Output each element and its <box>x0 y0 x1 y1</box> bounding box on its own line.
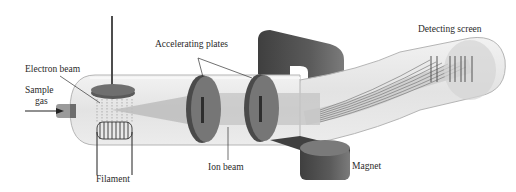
label-accelerating-plates: Accelerating plates <box>155 39 228 49</box>
label-sample-gas-1: Sample <box>25 85 54 95</box>
accelerating-plate-1 <box>186 75 221 143</box>
label-electron-beam: Electron beam <box>25 64 81 74</box>
accelerating-plate-2 <box>244 74 279 142</box>
label-sample-gas-2: gas <box>35 96 48 106</box>
label-filament: Filament <box>96 174 130 184</box>
electrode <box>91 16 135 99</box>
mass-spectrometer-diagram: Electron beam Sample gas Filament Accele… <box>0 0 516 192</box>
magnet-lower-pole <box>270 136 350 180</box>
label-ion-beam: Ion beam <box>208 162 244 172</box>
label-magnet: Magnet <box>352 161 381 171</box>
sample-gas-arrow <box>25 108 64 114</box>
label-detecting-screen: Detecting screen <box>418 24 482 34</box>
